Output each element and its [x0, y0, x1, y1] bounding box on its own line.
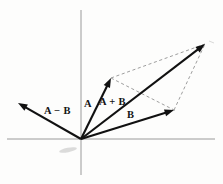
label-vector-a-minus-b: A − B [44, 106, 71, 117]
vector-diagram-canvas [0, 0, 223, 184]
label-vector-a: A [84, 99, 92, 110]
vector-a-plus-b [81, 44, 205, 139]
vector-a-arrowhead [104, 78, 111, 88]
dashed-line-b-tip-to-sum [174, 44, 205, 110]
vector-b-arrowhead [164, 109, 174, 116]
vector-diagram-figure: A A + B B A − B [0, 0, 223, 184]
vector-a-minus-b-arrowhead [18, 103, 28, 111]
label-vector-a-plus-b: A + B [99, 97, 126, 108]
dashed-line-a-tip-to-sum [111, 44, 205, 78]
scan-smudge-artifact [59, 146, 78, 154]
faint-mark-near-sum-tip [209, 41, 214, 43]
label-vector-b: B [127, 110, 134, 121]
